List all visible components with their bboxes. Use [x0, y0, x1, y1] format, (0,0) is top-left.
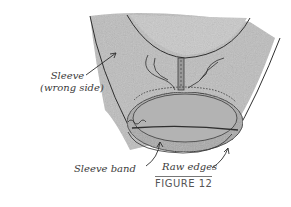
sleeve-illustration	[0, 0, 291, 207]
label-sleeve: Sleeve (wrong side)	[40, 70, 95, 94]
figure-caption: FIGURE 12	[155, 176, 212, 189]
label-sleeve-line2: (wrong side)	[40, 82, 95, 94]
label-raw-edges: Raw edges	[162, 161, 217, 173]
label-sleeve-band: Sleeve band	[74, 163, 136, 175]
label-sleeve-line1: Sleeve	[40, 70, 95, 82]
